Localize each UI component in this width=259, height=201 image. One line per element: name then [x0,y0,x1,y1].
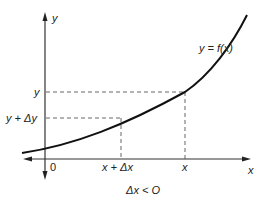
x-value-label: x [181,161,188,173]
curve-label: y = f(x) [198,42,233,54]
x-axis [23,157,251,162]
function-curve [22,15,247,153]
origin-label: 0 [50,161,56,173]
diagram-svg: y y = f(x) y y + Δy 0 x + Δx x x Δx < O [0,0,259,201]
x-axis-right-arrow-icon [242,157,251,162]
y-axis [43,12,48,180]
y-value-label: y [33,86,41,98]
x-axis-label: x [247,164,254,176]
derivative-diagram: y y = f(x) y y + Δy 0 x + Δx x x Δx < O [0,0,259,201]
y-axis-label: y [51,12,59,24]
y-plus-dy-label: y + Δy [5,112,38,124]
y-axis-down-arrow-icon [43,171,48,180]
x-plus-dx-label: x + Δx [101,161,133,173]
y-axis-up-arrow-icon [43,12,48,21]
caption: Δx < O [125,184,160,196]
x-axis-left-arrow-icon [23,157,32,162]
